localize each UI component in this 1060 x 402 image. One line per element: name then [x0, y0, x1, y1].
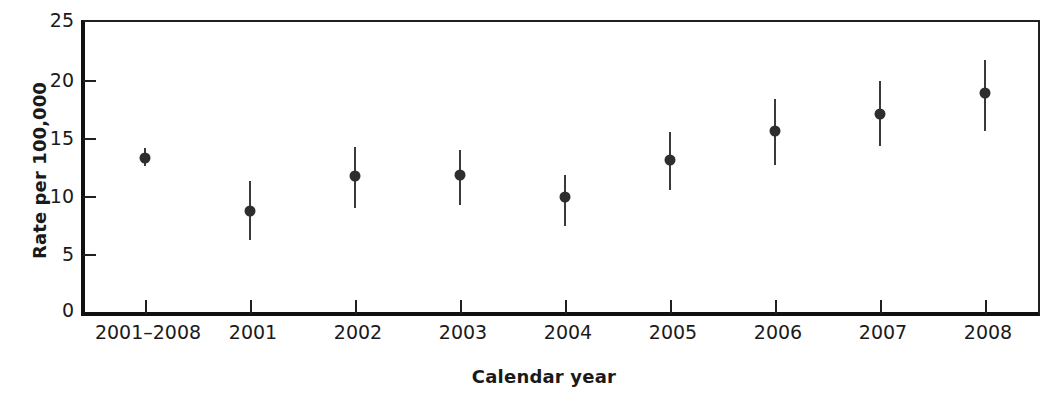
x-tick-8: 2008: [985, 300, 987, 314]
x-tick-0: 2001–2008: [145, 300, 147, 314]
x-tick-4: 2004: [565, 300, 567, 314]
x-tick-5: 2005: [670, 300, 672, 314]
y-tick-label-25: 25: [50, 9, 74, 31]
x-tick-label-3: 2003: [439, 321, 487, 343]
marker-2003: [455, 170, 466, 181]
x-tick-label-1: 2001: [229, 321, 277, 343]
x-tick-label-5: 2005: [649, 321, 697, 343]
x-axis-title: Calendar year: [0, 366, 1060, 387]
y-tick-label-10: 10: [50, 185, 74, 207]
chart-figure: Rate per 100,000 0510152025 2001–2008200…: [0, 0, 1060, 402]
x-tick-label-2: 2002: [334, 321, 382, 343]
x-tick-label-6: 2006: [754, 321, 802, 343]
x-tick-label-0: 2001–2008: [95, 321, 201, 343]
marker-2001–2008: [140, 152, 151, 163]
x-tick-label-7: 2007: [859, 321, 907, 343]
marker-2001: [245, 206, 256, 217]
y-tick-15: 15: [83, 138, 96, 140]
x-tick-1: 2001: [250, 300, 252, 314]
marker-2004: [560, 192, 571, 203]
plot-area: 0510152025 2001–200820012002200320042005…: [81, 20, 1040, 316]
y-tick-10: 10: [83, 196, 96, 198]
y-axis-title: Rate per 100,000: [29, 46, 50, 296]
x-tick-7: 2007: [880, 300, 882, 314]
marker-2007: [875, 108, 886, 119]
x-tick-label-8: 2008: [964, 321, 1012, 343]
y-tick-label-5: 5: [62, 243, 74, 265]
x-tick-3: 2003: [460, 300, 462, 314]
x-axis-title-text: Calendar year: [472, 366, 616, 387]
x-tick-2: 2002: [355, 300, 357, 314]
y-tick-label-0: 0: [62, 299, 74, 321]
marker-2008: [980, 87, 991, 98]
marker-2006: [770, 126, 781, 137]
marker-2002: [350, 171, 361, 182]
y-tick-20: 20: [83, 80, 96, 82]
x-tick-label-4: 2004: [544, 321, 592, 343]
x-tick-6: 2006: [775, 300, 777, 314]
y-tick-5: 5: [83, 254, 96, 256]
y-tick-label-15: 15: [50, 127, 74, 149]
y-tick-label-20: 20: [50, 69, 74, 91]
marker-2005: [665, 155, 676, 166]
